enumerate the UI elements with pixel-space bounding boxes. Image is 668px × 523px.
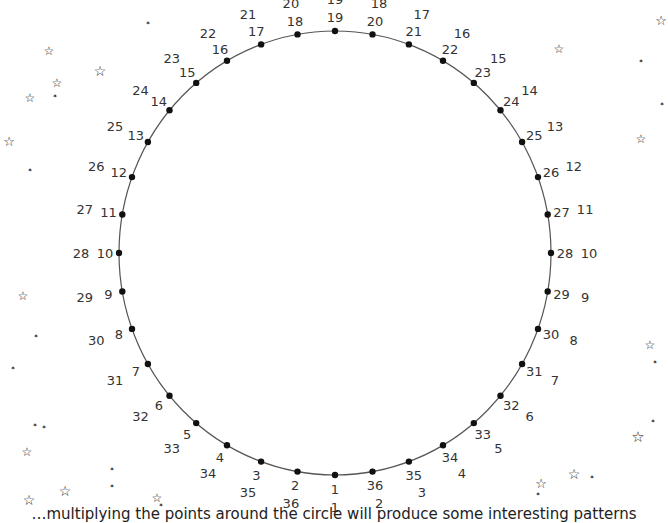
outer-label: 27 [77, 202, 94, 215]
outer-label: 34 [200, 466, 217, 479]
inner-label: 6 [155, 398, 163, 411]
inner-label: 26 [543, 166, 560, 179]
inner-label: 31 [526, 365, 543, 378]
outer-label: 4 [458, 466, 466, 479]
star-icon: ☆ [18, 290, 29, 302]
star-icon: ☆ [59, 484, 72, 498]
star-icon: ✶ [109, 466, 114, 472]
inner-label: 12 [111, 166, 128, 179]
outer-label: 18 [371, 0, 388, 9]
point-dot [166, 393, 172, 399]
inner-label: 32 [503, 398, 520, 411]
outer-label: 24 [132, 83, 149, 96]
point-dot [193, 420, 199, 426]
point-dot [332, 28, 338, 34]
inner-label: 5 [183, 427, 191, 440]
point-dot [440, 442, 446, 448]
star-icon: ☆ [535, 477, 547, 490]
inner-label: 24 [503, 95, 520, 108]
outer-label: 13 [547, 120, 564, 133]
inner-label: 11 [100, 206, 117, 219]
point-dot [224, 442, 230, 448]
point-dot [119, 288, 125, 294]
outer-label: 5 [494, 441, 502, 454]
point-dot [406, 41, 412, 47]
star-icon: ✶ [650, 418, 655, 424]
point-dot [166, 107, 172, 113]
star-icon: ☆ [94, 64, 107, 78]
inner-label: 28 [557, 247, 574, 260]
star-icon: ✶ [659, 101, 664, 107]
point-dot [332, 472, 338, 478]
inner-label: 10 [97, 247, 114, 260]
point-dot [294, 468, 300, 474]
inner-label: 21 [405, 25, 422, 38]
star-icon: ☆ [554, 43, 565, 55]
star-icon: ✶ [10, 365, 15, 371]
point-dots [116, 28, 554, 478]
star-icon: ✶ [535, 491, 540, 497]
star-icon: ☆ [25, 92, 36, 104]
outer-label: 12 [565, 160, 582, 173]
outer-label: 19 [327, 0, 344, 6]
star-icon: ☆ [22, 446, 33, 458]
inner-label: 13 [128, 129, 145, 142]
outer-label: 26 [88, 160, 105, 173]
outer-label: 25 [107, 120, 124, 133]
point-dot [545, 211, 551, 217]
star-icon: ✶ [589, 474, 594, 480]
point-dot [548, 250, 554, 256]
inner-label: 17 [248, 25, 265, 38]
point-dot [519, 139, 525, 145]
star-icon: ☆ [52, 77, 63, 89]
inner-label: 14 [151, 95, 168, 108]
inner-label: 33 [475, 427, 492, 440]
point-dot [193, 80, 199, 86]
inner-label: 36 [367, 479, 384, 492]
inner-label: 15 [179, 66, 196, 79]
outer-label: 28 [73, 247, 90, 260]
point-dot [294, 31, 300, 37]
star-icon: ✶ [41, 424, 46, 430]
caption-text: …multiplying the points around the circl… [0, 507, 668, 522]
outer-label: 3 [418, 485, 426, 498]
star-icon: ✶ [652, 359, 657, 365]
inner-label: 22 [442, 42, 459, 55]
inner-label: 9 [104, 287, 112, 300]
inner-label: 3 [252, 468, 260, 481]
outer-label: 32 [132, 410, 149, 423]
inner-label: 23 [475, 66, 492, 79]
point-dot [369, 468, 375, 474]
inner-label: 16 [212, 42, 229, 55]
point-dot [145, 139, 151, 145]
star-icon: ☆ [645, 339, 656, 351]
circle-outline [119, 31, 551, 475]
point-dot [224, 58, 230, 64]
star-icon: ✶ [109, 483, 114, 489]
outer-label: 21 [240, 8, 257, 21]
inner-label: 27 [553, 206, 570, 219]
point-dot [471, 80, 477, 86]
point-dot [519, 361, 525, 367]
outer-label: 15 [490, 52, 507, 65]
outer-label: 6 [525, 410, 533, 423]
outer-label: 8 [570, 333, 578, 346]
inner-label: 18 [287, 14, 304, 27]
star-icon: ✶ [638, 58, 643, 64]
inner-label: 20 [367, 14, 384, 27]
point-dot [119, 211, 125, 217]
inner-label: 34 [442, 451, 459, 464]
point-dot [258, 41, 264, 47]
star-icon: ✶ [33, 333, 38, 339]
outer-label: 7 [551, 374, 559, 387]
star-icon: ✶ [52, 93, 57, 99]
inner-label: 4 [216, 451, 224, 464]
inner-label: 30 [543, 327, 560, 340]
point-dot [258, 458, 264, 464]
point-dot [535, 174, 541, 180]
star-icon: ☆ [3, 135, 15, 148]
outer-label: 33 [163, 441, 180, 454]
inner-label: 29 [553, 287, 570, 300]
star-icon: ✶ [32, 422, 37, 428]
outer-label: 16 [454, 27, 471, 40]
